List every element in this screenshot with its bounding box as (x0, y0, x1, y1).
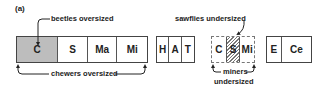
beetles-arrow-icon (38, 19, 50, 44)
sawflies-arrow-icon (238, 20, 244, 34)
chewers-bracket-left-icon (18, 66, 49, 74)
chewers-bracket-right-icon (115, 66, 145, 74)
arrows-overlay (0, 0, 322, 108)
miners-bracket-right-icon (246, 66, 254, 72)
miners-bracket-left-icon (213, 66, 221, 72)
